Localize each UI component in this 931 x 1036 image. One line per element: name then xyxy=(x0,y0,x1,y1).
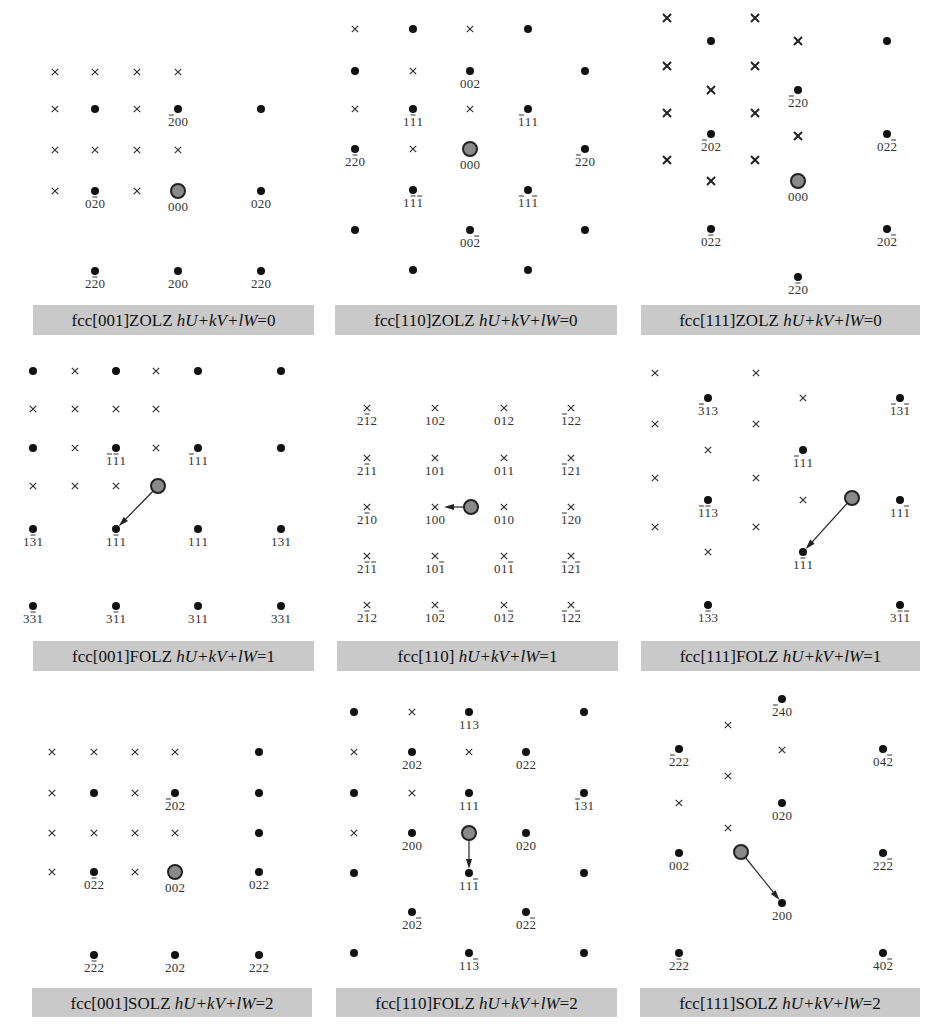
caption-order: =0 xyxy=(257,311,275,330)
forbidden-reflection-cross-icon xyxy=(153,406,159,412)
reflection-spot-icon xyxy=(350,869,358,877)
hkl-label: 111 xyxy=(106,534,126,549)
forbidden-reflection-cross-icon xyxy=(172,749,178,755)
hkl-label: 042 xyxy=(873,754,893,769)
forbidden-reflection-cross-icon xyxy=(351,830,357,836)
transmitted-beam-spot-icon xyxy=(151,479,165,493)
reflection-spot-icon xyxy=(350,949,358,957)
hkl-label: 222 xyxy=(873,858,893,873)
forbidden-reflection-cross-icon xyxy=(705,549,711,555)
hkl-label: 113 xyxy=(459,958,479,973)
reflection-spot-icon xyxy=(194,602,202,610)
caption-formula: hU+kV+lW xyxy=(176,647,258,666)
forbidden-reflection-cross-icon xyxy=(132,749,138,755)
reflection-spot-icon xyxy=(255,748,263,756)
caption-order: =1 xyxy=(539,647,557,666)
reflection-spot-icon xyxy=(351,67,359,75)
hkl-label: 020 xyxy=(251,196,271,211)
reflection-spot-icon xyxy=(896,394,904,402)
reflection-spot-icon xyxy=(524,266,532,274)
hkl-label: 111 xyxy=(459,798,479,813)
caption-zone-axis: fcc[111]SOLZ xyxy=(679,994,782,1013)
hkl-label: 200 xyxy=(168,276,188,291)
caption-zone-axis: fcc[111]ZOLZ xyxy=(679,311,783,330)
hkl-label: 100 xyxy=(425,512,445,527)
panel-p9: 240222042020002222200222402fcc[111]SOLZ … xyxy=(640,695,920,1017)
hkl-label: 012 xyxy=(494,413,514,428)
hkl-label: 102 xyxy=(425,610,445,625)
hkl-label: 111 xyxy=(403,114,423,129)
panel-caption: fcc[111]FOLZ hU+kV+lW=1 xyxy=(680,647,882,666)
reflection-spot-icon xyxy=(91,105,99,113)
hkl-label: 131 xyxy=(890,403,910,418)
forbidden-reflection-cross-icon xyxy=(91,830,97,836)
forbidden-reflection-cross-icon xyxy=(663,109,671,117)
hkl-label: 000 xyxy=(460,157,480,172)
forbidden-reflection-cross-icon xyxy=(72,368,78,374)
reflection-spot-icon xyxy=(409,105,417,113)
forbidden-reflection-cross-icon xyxy=(432,405,438,411)
transmitted-beam-spot-icon xyxy=(463,142,477,156)
reflection-spot-icon xyxy=(707,225,715,233)
forbidden-reflection-cross-icon xyxy=(134,188,140,194)
forbidden-reflection-cross-icon xyxy=(751,62,759,70)
forbidden-reflection-cross-icon xyxy=(725,825,731,831)
hkl-label: 200 xyxy=(772,908,792,923)
forbidden-reflection-cross-icon xyxy=(568,405,574,411)
forbidden-reflection-cross-icon xyxy=(409,790,415,796)
forbidden-reflection-cross-icon xyxy=(432,602,438,608)
transmitted-beam-spot-icon xyxy=(464,500,478,514)
hkl-label: 022 xyxy=(877,139,897,154)
forbidden-reflection-cross-icon xyxy=(707,177,715,185)
transmitted-beam-spot-icon xyxy=(791,174,805,188)
hkl-label: 220 xyxy=(251,276,271,291)
reflection-spot-icon xyxy=(351,145,359,153)
hkl-label: 101 xyxy=(425,463,445,478)
panel-caption: fcc[111]SOLZ hU+kV+lW=2 xyxy=(679,994,881,1013)
reflection-spot-icon xyxy=(112,444,120,452)
hkl-label: 000 xyxy=(788,189,808,204)
forbidden-reflection-cross-icon xyxy=(153,368,159,374)
hkl-label: 402 xyxy=(873,958,893,973)
hkl-label: 020 xyxy=(85,196,105,211)
reflection-spot-icon xyxy=(799,446,807,454)
forbidden-reflection-cross-icon xyxy=(751,109,759,117)
reflection-spot-icon xyxy=(879,949,887,957)
reflection-spot-icon xyxy=(408,829,416,837)
reflection-spot-icon xyxy=(581,67,589,75)
forbidden-reflection-cross-icon xyxy=(725,722,731,728)
forbidden-reflection-cross-icon xyxy=(49,830,55,836)
hkl-label: 212 xyxy=(357,413,377,428)
hkl-label: 111 xyxy=(106,453,126,468)
forbidden-reflection-cross-icon xyxy=(501,553,507,559)
hkl-label: 011 xyxy=(494,561,514,576)
reflection-spot-icon xyxy=(257,187,265,195)
forbidden-reflection-cross-icon xyxy=(676,800,682,806)
hkl-label: 002 xyxy=(165,880,185,895)
hkl-label: 211 xyxy=(357,561,377,576)
reflection-spot-icon xyxy=(465,869,473,877)
reflection-spot-icon xyxy=(896,601,904,609)
panel-p8: 113202022111131200020111202022113fcc[110… xyxy=(336,708,617,1017)
reflection-spot-icon xyxy=(879,745,887,753)
reflection-spot-icon xyxy=(112,525,120,533)
reflection-spot-icon xyxy=(524,25,532,33)
reflection-spot-icon xyxy=(91,187,99,195)
reflection-spot-icon xyxy=(704,394,712,402)
forbidden-reflection-cross-icon xyxy=(568,553,574,559)
reflection-spot-icon xyxy=(112,367,120,375)
forbidden-reflection-cross-icon xyxy=(753,421,759,427)
reflection-spot-icon xyxy=(171,789,179,797)
forbidden-reflection-cross-icon xyxy=(175,147,181,153)
caption-formula: hU+kV+lW xyxy=(175,994,257,1013)
reflection-spot-icon xyxy=(704,601,712,609)
forbidden-reflection-cross-icon xyxy=(432,455,438,461)
caption-zone-axis: fcc[001]SOLZ xyxy=(71,994,175,1013)
caption-zone-axis: fcc[110]ZOLZ xyxy=(374,311,479,330)
laue-shift-arrow xyxy=(741,852,776,895)
reflection-spot-icon xyxy=(408,908,416,916)
caption-formula: hU+kV+lW xyxy=(479,311,561,330)
forbidden-reflection-cross-icon xyxy=(753,475,759,481)
forbidden-reflection-cross-icon xyxy=(352,106,358,112)
hkl-label: 111 xyxy=(188,453,208,468)
